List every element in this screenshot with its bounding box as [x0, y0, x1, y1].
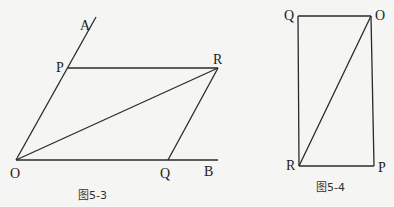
label-O: O: [10, 166, 20, 181]
label-P: P: [56, 60, 64, 75]
label-Q: Q: [160, 166, 170, 181]
label-P: P: [378, 160, 386, 175]
label-Q: Q: [284, 8, 294, 23]
figure-5-3: A P R O Q B 图5-3: [10, 17, 223, 202]
geometry-figures: A P R O Q B 图5-3 Q O R P 图5-4: [0, 0, 394, 207]
caption-figure-5-3: 图5-3: [78, 189, 107, 202]
label-A: A: [80, 18, 91, 33]
segment-QR: [298, 16, 299, 166]
label-B: B: [204, 164, 213, 179]
label-O: O: [375, 8, 385, 23]
segment-RO: [299, 16, 371, 166]
ray-OA: [16, 17, 96, 160]
label-R: R: [286, 158, 296, 173]
figure-5-4: Q O R P 图5-4: [284, 8, 386, 194]
caption-figure-5-4: 图5-4: [316, 181, 345, 194]
label-R: R: [213, 52, 223, 67]
segment-QR: [168, 68, 218, 160]
segment-OP: [371, 16, 374, 166]
figures-canvas: A P R O Q B 图5-3 Q O R P 图5-4: [0, 0, 394, 207]
segment-OR: [16, 68, 218, 160]
